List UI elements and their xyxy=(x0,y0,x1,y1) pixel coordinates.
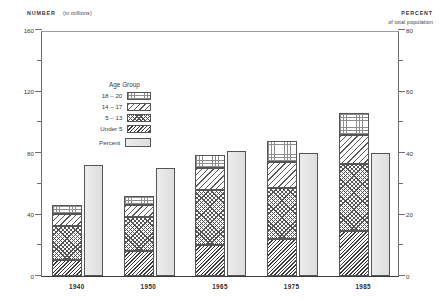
legend-item-percent: Percent xyxy=(99,138,151,148)
legend-item: 5 – 13 xyxy=(99,113,151,123)
x-axis-label: 1985 xyxy=(327,283,399,290)
x-axis-label: 1975 xyxy=(256,283,328,290)
percent-bar xyxy=(156,168,175,276)
bar-segment xyxy=(339,164,369,232)
legend-rows: 18 – 2014 – 175 – 13Under 5 xyxy=(99,91,151,133)
legend-label: 14 – 17 xyxy=(102,103,123,110)
left-tick-label: 0 xyxy=(8,273,34,280)
legend-swatch xyxy=(127,103,151,111)
bar-segment xyxy=(195,155,225,169)
stacked-bar xyxy=(52,205,82,276)
legend-swatch xyxy=(127,114,151,122)
percent-bar xyxy=(371,153,390,276)
bar-segment xyxy=(124,251,154,276)
bar-segment xyxy=(339,231,369,276)
bar-segment xyxy=(124,217,154,251)
legend-item: 18 – 20 xyxy=(99,91,151,101)
bar-group xyxy=(328,32,400,276)
percent-bar xyxy=(299,153,318,276)
bar-segment xyxy=(52,205,82,214)
legend-item: 14 – 17 xyxy=(99,102,151,112)
legend-item: Under 5 xyxy=(99,124,151,134)
left-tick-label: 40 xyxy=(8,211,34,218)
right-tick-label: 0 xyxy=(406,273,432,280)
bar-segment xyxy=(195,190,225,245)
right-tick-label: 40 xyxy=(406,150,432,157)
bar-segment xyxy=(124,205,154,217)
bar-segment xyxy=(339,113,369,135)
stacked-bar xyxy=(267,141,297,276)
bar-segment xyxy=(52,260,82,276)
bar-segment xyxy=(267,162,297,188)
percent-bar xyxy=(84,165,103,276)
chart-container: NUMBER (in millions) PERCENT of total po… xyxy=(0,0,441,300)
legend-title: Age Group xyxy=(99,81,151,88)
x-axis-label: 1965 xyxy=(184,283,256,290)
legend-label-percent: Percent xyxy=(99,139,120,146)
right-tick-label: 80 xyxy=(406,27,432,34)
right-tick-major xyxy=(398,29,405,30)
left-tick-label: 160 xyxy=(8,27,34,34)
bar-group xyxy=(114,32,186,276)
plot-area: 04080120160 020406080 Age Group 18 – 201… xyxy=(41,31,399,277)
left-tick-label: 80 xyxy=(8,150,34,157)
bar-group xyxy=(42,32,114,276)
x-axis-label: 1940 xyxy=(41,283,113,290)
left-tick-major xyxy=(35,214,42,215)
legend-label: Under 5 xyxy=(100,125,122,132)
bar-segment xyxy=(267,188,297,239)
legend-label: 18 – 20 xyxy=(102,92,123,99)
bar-segment xyxy=(339,135,369,164)
right-axis-caption-bold: PERCENT xyxy=(401,10,433,16)
x-axis-label: 1950 xyxy=(113,283,185,290)
left-tick-major xyxy=(35,91,42,92)
legend-swatch-percent xyxy=(125,138,151,147)
bar-segment xyxy=(267,239,297,276)
left-tick-major xyxy=(35,275,42,276)
legend-swatch xyxy=(127,125,151,133)
legend-swatch xyxy=(127,92,151,100)
left-axis-caption-bold: NUMBER xyxy=(27,10,56,16)
left-tick-label: 120 xyxy=(8,88,34,95)
stacked-bar xyxy=(124,196,154,276)
bar-segment xyxy=(52,226,82,260)
stacked-bar xyxy=(339,113,369,276)
bar-segment xyxy=(52,214,82,226)
right-tick-label: 60 xyxy=(406,88,432,95)
bar-segment xyxy=(124,196,154,204)
left-axis-caption-units: (in millions) xyxy=(63,10,92,16)
bar-segment xyxy=(195,168,225,190)
legend-label: 5 – 13 xyxy=(105,114,122,121)
bar-segment xyxy=(195,245,225,276)
stacked-bar xyxy=(195,155,225,276)
left-tick-major xyxy=(35,152,42,153)
right-axis-caption-units: of total population xyxy=(388,19,433,25)
bar-group xyxy=(257,32,329,276)
percent-bar xyxy=(227,151,246,276)
right-tick-label: 20 xyxy=(406,211,432,218)
chart-legend: Age Group 18 – 2014 – 175 – 13Under 5 Pe… xyxy=(99,81,151,149)
left-tick-major xyxy=(35,29,42,30)
bar-segment xyxy=(267,141,297,163)
bar-group xyxy=(185,32,257,276)
